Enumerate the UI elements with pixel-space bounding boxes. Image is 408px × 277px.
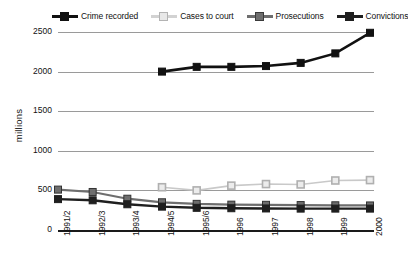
data-point-marker (332, 50, 339, 57)
data-point-marker (263, 205, 270, 212)
data-point-marker (367, 177, 374, 184)
data-point-marker (297, 181, 304, 188)
x-tick-label: 1996 (235, 217, 245, 236)
data-point-marker (367, 29, 374, 36)
x-tick-label: 1999 (339, 217, 349, 236)
data-point-marker (332, 177, 339, 184)
x-tick-label: 1997 (270, 217, 280, 236)
data-point-marker (263, 63, 270, 70)
data-point-marker (193, 204, 200, 211)
data-point-marker (228, 205, 235, 212)
x-tick-label: 1995/6 (201, 211, 211, 236)
data-point-marker (159, 184, 166, 191)
data-point-marker (228, 63, 235, 70)
data-point-marker (124, 201, 131, 208)
data-point-marker (55, 196, 62, 203)
x-tick-label: 1993/4 (131, 211, 141, 236)
data-point-marker (193, 63, 200, 70)
data-point-marker (193, 187, 200, 194)
series-prosecutions (55, 186, 374, 209)
data-point-marker (332, 205, 339, 212)
x-tick-label: 2000 (374, 217, 384, 236)
data-point-marker (367, 205, 374, 212)
data-point-marker (55, 186, 62, 193)
series-line (58, 190, 370, 206)
data-point-marker (297, 59, 304, 66)
series-crime-recorded (159, 29, 374, 75)
data-point-marker (89, 197, 96, 204)
data-point-marker (228, 182, 235, 189)
x-tick-label: 1994/5 (166, 211, 176, 236)
data-point-marker (159, 203, 166, 210)
data-point-marker (159, 68, 166, 75)
x-tick-label: 1998 (305, 217, 315, 236)
data-point-marker (89, 188, 96, 195)
x-tick-label: 1992/3 (97, 211, 107, 236)
x-tick-label: 1991/2 (62, 211, 72, 236)
series-cases-to-court (159, 177, 374, 194)
data-point-marker (263, 181, 270, 188)
data-point-marker (297, 205, 304, 212)
